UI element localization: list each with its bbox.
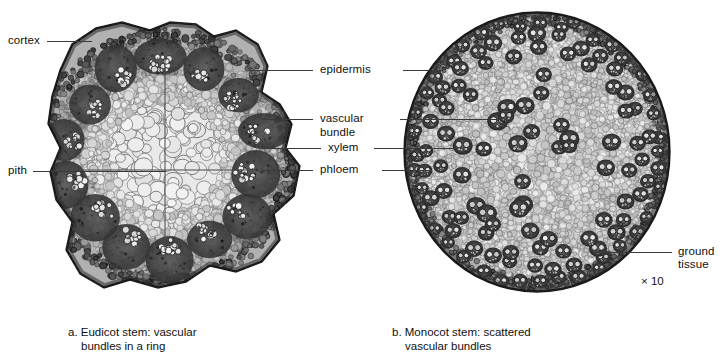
label-epidermis: epidermis	[320, 63, 371, 77]
figure-canvas	[0, 0, 728, 361]
label-vascular-bundle-line1: vascular	[320, 112, 364, 126]
caption-panel-a-line2: bundles in a ring	[81, 339, 165, 353]
magnification-label: × 10	[641, 275, 664, 287]
label-cortex: cortex	[8, 34, 40, 48]
label-pith: pith	[8, 164, 27, 178]
monocot-stem-micrograph	[402, 11, 672, 293]
label-phloem: phloem	[320, 163, 358, 177]
label-xylem: xylem	[328, 141, 359, 155]
stem-cross-section-figure: cortex pith epidermis vascular bundle xy…	[0, 0, 728, 361]
caption-panel-b-line1: b. Monocot stem: scattered	[392, 325, 531, 339]
eudicot-stem-micrograph	[30, 12, 308, 296]
label-ground-tissue-line2: tissue	[678, 258, 709, 272]
caption-panel-b-line2: vascular bundles	[405, 339, 491, 353]
label-vascular-bundle-line2: bundle	[320, 126, 355, 140]
caption-panel-a-line1: a. Eudicot stem: vascular	[68, 325, 196, 339]
label-ground-tissue-line1: ground	[678, 245, 714, 259]
